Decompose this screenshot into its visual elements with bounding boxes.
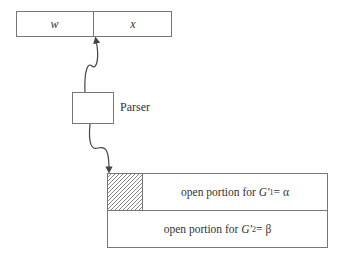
open-portion-g1: open portion for G′1 = α <box>143 174 327 210</box>
row-prefix: open portion for <box>164 223 239 235</box>
parser-box <box>72 92 114 124</box>
tape-cell-label: x <box>130 17 135 32</box>
row-prefix: open portion for <box>181 186 256 198</box>
parser-label: Parser <box>120 100 150 115</box>
parser-to-tape-arrow <box>85 40 98 92</box>
row-symbol: G′ <box>241 223 252 235</box>
hatched-filled-region <box>108 174 143 210</box>
tape-cell-label: w <box>50 17 58 32</box>
row-symbol: G′ <box>259 186 270 198</box>
parser-to-output-arrow <box>89 124 109 170</box>
tape-cell-x: x <box>94 11 172 37</box>
tape-cell-w: w <box>16 11 93 37</box>
row-suffix: = α <box>274 186 289 198</box>
row-suffix: = β <box>256 223 271 235</box>
open-portion-g2: open portion for G′2 = β <box>108 211 327 247</box>
